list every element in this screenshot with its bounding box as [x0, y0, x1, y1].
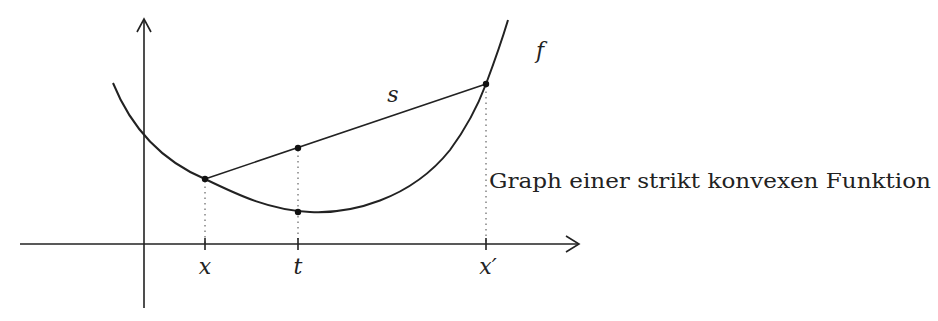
y-axis — [137, 19, 151, 308]
point-x-prime-on-curve — [483, 81, 489, 87]
marked-points — [202, 81, 489, 215]
convex-function-diagram: x t x′ s f Graph einer strikt konvexen F… — [0, 0, 938, 321]
tick-label-x: x — [199, 254, 212, 279]
secant-label: s — [387, 82, 398, 107]
x-axis — [20, 236, 579, 252]
figure-caption: Graph einer strikt konvexen Funktion — [489, 169, 931, 193]
function-label: f — [534, 38, 548, 63]
point-t-on-curve — [295, 209, 301, 215]
secant-line — [205, 84, 486, 179]
function-curve — [113, 20, 508, 212]
tick-label-t: t — [294, 254, 303, 279]
point-t-on-secant — [295, 145, 301, 151]
tick-label-x-prime: x′ — [479, 254, 496, 279]
point-x-on-curve — [202, 176, 208, 182]
